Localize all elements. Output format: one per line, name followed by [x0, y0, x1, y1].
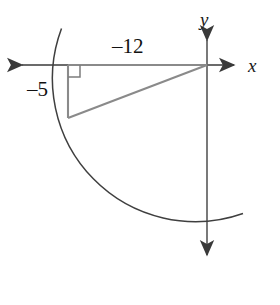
diagram-root: x y –12 –5	[0, 0, 280, 305]
x-axis-label: x	[248, 56, 256, 75]
opposite-leg-label: –5	[27, 79, 48, 100]
reference-arc	[52, 29, 243, 222]
adjacent-leg-label: –12	[112, 36, 144, 57]
right-angle-marker	[68, 65, 80, 77]
y-axis-label: y	[200, 10, 208, 29]
triangle-hypotenuse	[68, 65, 207, 118]
